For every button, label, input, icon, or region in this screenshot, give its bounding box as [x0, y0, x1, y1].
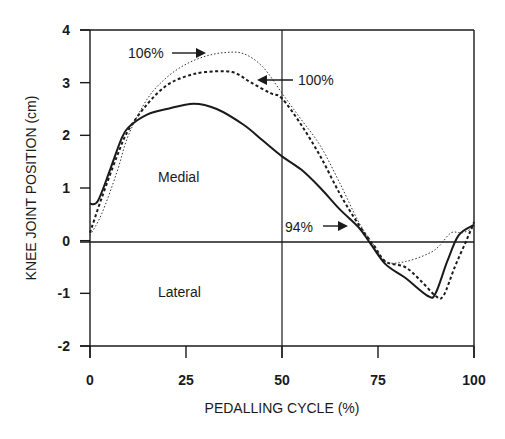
y-tick-label: -2: [58, 338, 71, 354]
x-tick-label: 0: [86, 372, 94, 388]
x-tick-label: 50: [274, 372, 290, 388]
knee-position-chart: -2-101234 0255075100 Medial Lateral 106%…: [0, 0, 505, 439]
annotation-100: 100%: [259, 72, 334, 88]
x-tick-label: 100: [462, 372, 486, 388]
x-axis-ticks: 0255075100: [86, 346, 486, 388]
lateral-region-label: Lateral: [158, 284, 201, 300]
annotation-94: 94%: [285, 219, 346, 235]
y-tick-label: 0: [62, 233, 70, 249]
y-tick-label: 4: [62, 22, 70, 38]
y-axis-ticks: -2-101234: [58, 22, 90, 354]
x-tick-label: 25: [178, 372, 194, 388]
annotation-100-label: 100%: [298, 72, 334, 88]
annotation-106: 106%: [128, 45, 204, 61]
y-axis-title: KNEE JOINT POSITION (cm): [23, 96, 39, 281]
annotation-106-label: 106%: [128, 45, 164, 61]
plot-frame: [80, 30, 474, 358]
medial-region-label: Medial: [158, 169, 199, 185]
y-tick-label: 1: [62, 180, 70, 196]
annotation-94-label: 94%: [285, 219, 313, 235]
y-tick-label: 2: [62, 127, 70, 143]
x-tick-label: 75: [370, 372, 386, 388]
x-axis-title: PEDALLING CYCLE (%): [205, 400, 360, 416]
y-tick-label: -1: [58, 285, 71, 301]
y-tick-label: 3: [62, 75, 70, 91]
